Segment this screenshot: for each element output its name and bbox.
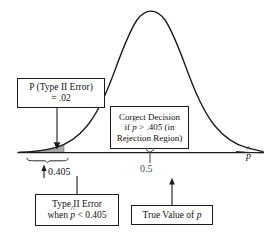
mean-tick-marker (146, 150, 154, 153)
tick-405-arrowhead (41, 165, 46, 171)
true-value-prefix: True Value of (143, 210, 197, 220)
p-hat-symbol: p (132, 122, 137, 132)
callout-type2-error-line1: Type II Error (52, 199, 102, 210)
x-axis-tick-label-05: 0.5 (140, 163, 153, 174)
callout-type-ii-error: Type II Error when p < 0.405 (35, 194, 119, 226)
type2-error-line2-prefix: when (47, 210, 70, 220)
callout-correct-decision: Correct Decision if p > .405 (in Rejecti… (110, 106, 189, 149)
type2-error-line2-suffix: < 0.405 (75, 210, 106, 220)
p-hat-symbol: p (70, 210, 75, 220)
p-symbol: p (197, 210, 202, 220)
callout-type2-error-line2: when p < 0.405 (47, 210, 106, 221)
callout-true-value-of-p: True Value of p (131, 205, 213, 225)
correct-decision-line2-suffix: > .405 (in (137, 122, 175, 132)
callout-type2-prob-line2: = .02 (51, 93, 71, 104)
true-value-arrowhead (169, 178, 175, 185)
rejection-region-brace (27, 158, 68, 163)
callout-correct-decision-line2: if p > .405 (in (125, 122, 175, 132)
p-hat-symbol: p (246, 150, 251, 161)
callout-correct-decision-line1: Correct Decision (119, 112, 180, 122)
callout-correct-decision-line3: Rejection Region) (117, 133, 183, 143)
callout-true-value-line: True Value of p (143, 210, 202, 221)
callout-type2-prob-line1: P (Type II Error) (29, 82, 93, 93)
x-axis-tick-label-0405: 0.405 (48, 166, 71, 177)
type-ii-error-figure: P (Type II Error) = .02 Correct Decision… (0, 0, 269, 236)
callout-type-ii-error-probability: P (Type II Error) = .02 (17, 78, 105, 108)
x-axis-variable-label: p (246, 150, 251, 161)
